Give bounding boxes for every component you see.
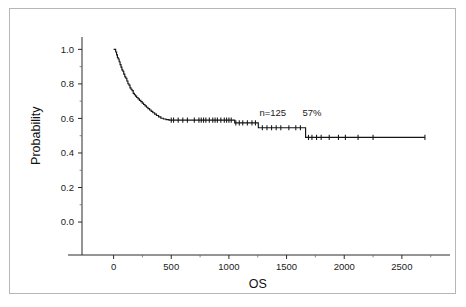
survival-chart: 0.00.20.40.60.81.005001000150020002500OS… <box>10 9 455 293</box>
y-tick-label: 0.4 <box>61 147 74 158</box>
x-tick-label: 2500 <box>391 261 412 272</box>
y-tick-label: 1.0 <box>61 44 74 55</box>
y-tick-label: 0.0 <box>61 216 74 227</box>
x-tick-label: 2000 <box>334 261 355 272</box>
x-tick-label: 1000 <box>218 261 239 272</box>
figure-frame: 0.00.20.40.60.81.005001000150020002500OS… <box>9 8 456 294</box>
x-tick-label: 500 <box>163 261 179 272</box>
y-axis-title: Probability <box>29 106 43 165</box>
curve-annotation-0: n=125 <box>259 107 286 118</box>
x-tick-label: 1500 <box>276 261 297 272</box>
curve-annotation-1: 57% <box>302 107 322 118</box>
x-tick-label: 0 <box>111 261 116 272</box>
y-tick-label: 0.6 <box>61 113 74 124</box>
y-tick-label: 0.8 <box>61 78 74 89</box>
y-tick-label: 0.2 <box>61 182 74 193</box>
x-axis-title: OS <box>249 277 267 291</box>
survival-curve-line <box>114 49 425 137</box>
